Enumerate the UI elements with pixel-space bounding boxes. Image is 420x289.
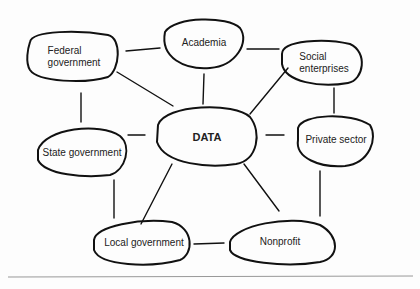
edge-data-federal xyxy=(117,72,173,106)
node-label-local: Local government xyxy=(104,237,184,249)
node-label-federal: Federal government xyxy=(48,45,101,69)
node-label-data: DATA xyxy=(193,131,222,143)
edge-federal-academia xyxy=(126,48,160,51)
node-label-state: State government xyxy=(43,147,122,159)
node-label-social: Social enterprises xyxy=(299,51,348,75)
divider xyxy=(8,276,413,277)
node-label-private: Private sector xyxy=(305,134,366,146)
node-label-academia: Academia xyxy=(182,37,226,49)
node-label-nonprofit: Nonprofit xyxy=(260,236,301,248)
edge-data-academia xyxy=(203,74,204,104)
edge-data-local xyxy=(141,164,172,224)
edges xyxy=(81,48,334,244)
edge-data-social xyxy=(250,68,288,114)
edge-local-nonprofit xyxy=(194,243,224,244)
edge-data-nonprofit xyxy=(244,164,279,211)
